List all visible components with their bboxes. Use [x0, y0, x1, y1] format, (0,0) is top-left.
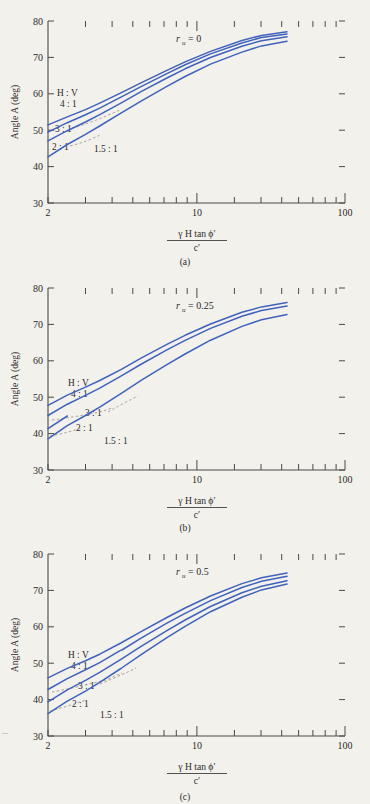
curve-label-header: H : V [68, 650, 89, 660]
page-edge-artifact [2, 733, 8, 734]
y-tick-label: 40 [33, 161, 43, 172]
x-tick-label: 10 [192, 740, 202, 751]
y-axis-title: Angle A (deg) [9, 352, 21, 406]
annotation-value: = 0.25 [188, 300, 214, 311]
x-tick-label: 2 [46, 740, 51, 751]
curves-c [48, 573, 287, 714]
curve-2to1 [48, 37, 287, 141]
curve-2to1 [48, 416, 67, 429]
y-tick-label: 60 [33, 621, 43, 632]
subfigure-caption-a: (a) [180, 256, 191, 268]
annotation-symbol: r [176, 33, 180, 44]
chart-svg-c: 30 40 50 60 70 80 2 10 100 Angle A (deg)… [0, 534, 370, 804]
x-axis-numerator: γ H tan ϕ′ [177, 228, 215, 239]
y-tick-label: 80 [33, 549, 43, 560]
y-tick-labels-a: 30 40 50 60 70 80 [33, 16, 43, 209]
y-tick-label: 30 [33, 731, 43, 742]
x-axis-title-c: γ H tan ϕ′ c′ [167, 761, 227, 786]
y-tick-labels-c: 30 40 50 60 70 80 [33, 549, 43, 742]
curve-4to1 [48, 573, 287, 678]
chart-svg-a: 30 40 50 60 70 80 2 10 100 Angle A (deg)… [0, 0, 370, 268]
x-tick-label: 10 [192, 207, 202, 218]
annotation-value: = 0.5 [188, 566, 209, 577]
subfigure-caption-b: (b) [179, 522, 190, 534]
curve-label-header: H : V [57, 88, 78, 98]
y-tick-label: 50 [33, 658, 43, 669]
x-tick-labels-a: 2 10 100 [46, 207, 353, 218]
x-axis-numerator: γ H tan ϕ′ [177, 495, 215, 506]
annotation-subscript: u [182, 39, 186, 47]
y-tick-label: 40 [33, 428, 43, 439]
annotation-symbol: r [176, 300, 180, 311]
y-axis-ticks-c [48, 554, 345, 736]
curve-15to1 [48, 584, 287, 714]
x-axis-ticks-b [48, 288, 345, 470]
curve-label-2to1: 2 : 1 [76, 423, 93, 433]
x-tick-label: 100 [338, 740, 353, 751]
curve-15to1 [48, 314, 287, 438]
curve-label-15to1: 1.5 : 1 [104, 436, 128, 446]
y-tick-label: 70 [33, 585, 43, 596]
x-tick-labels-b: 2 10 100 [46, 474, 353, 485]
y-axis-title: Angle A (deg) [9, 85, 21, 139]
curve-label-3to1: 3 : 1 [85, 408, 102, 418]
y-tick-label: 60 [33, 88, 43, 99]
curve-label-2to1: 2 : 1 [52, 142, 69, 152]
annotation-symbol: r [176, 566, 180, 577]
annotation-value: = 0 [188, 33, 201, 44]
annotation-subscript: u [182, 306, 186, 314]
curve-15to1 [48, 41, 287, 157]
x-tick-label: 100 [338, 207, 353, 218]
chart-panel-a: 30 40 50 60 70 80 2 10 100 Angle A (deg)… [0, 0, 370, 268]
x-axis-denominator: c′ [194, 509, 200, 520]
y-tick-label: 70 [33, 52, 43, 63]
axis-lines [48, 554, 345, 736]
y-tick-label: 70 [33, 319, 43, 330]
curve-label-15to1: 1.5 : 1 [94, 144, 118, 154]
x-axis-title-b: γ H tan ϕ′ c′ [167, 495, 227, 520]
annotation-ru-c: r u = 0.5 [176, 566, 209, 580]
curve-label-4to1: 4 : 1 [60, 99, 77, 109]
annotation-ru-b: r u = 0.25 [176, 300, 214, 314]
x-axis-denominator: c′ [194, 775, 200, 786]
chart-svg-b: 30 40 50 60 70 80 2 10 100 Angle A (deg)… [0, 268, 370, 534]
x-tick-label: 2 [46, 207, 51, 218]
x-axis-numerator: γ H tan ϕ′ [177, 761, 215, 772]
curves-a [48, 32, 287, 157]
x-tick-label: 100 [338, 474, 353, 485]
y-tick-label: 60 [33, 355, 43, 366]
annotation-subscript: u [182, 572, 186, 580]
y-tick-label: 40 [33, 694, 43, 705]
x-axis-denominator: c′ [194, 242, 200, 253]
x-tick-labels-c: 2 10 100 [46, 740, 353, 751]
y-tick-label: 50 [33, 392, 43, 403]
y-axis-ticks-b [48, 288, 345, 470]
chart-panel-b: 30 40 50 60 70 80 2 10 100 Angle A (deg)… [0, 268, 370, 534]
subfigure-caption-c: (c) [180, 791, 191, 803]
annotation-ru-a: r u = 0 [176, 33, 201, 47]
y-tick-label: 80 [33, 283, 43, 294]
x-tick-label: 2 [46, 474, 51, 485]
figure-page: 30 40 50 60 70 80 2 10 100 Angle A (deg)… [0, 0, 370, 804]
x-tick-label: 10 [192, 474, 202, 485]
curves-b [48, 303, 287, 439]
y-tick-label: 30 [33, 465, 43, 476]
x-axis-ticks-c [48, 554, 345, 736]
y-tick-label: 80 [33, 16, 43, 27]
y-axis-title: Angle A (deg) [9, 618, 21, 672]
y-tick-labels-b: 30 40 50 60 70 80 [33, 283, 43, 476]
axis-lines [48, 288, 345, 470]
y-tick-label: 50 [33, 125, 43, 136]
x-axis-title-a: γ H tan ϕ′ c′ [167, 228, 227, 253]
chart-panel-c: 30 40 50 60 70 80 2 10 100 Angle A (deg)… [0, 534, 370, 804]
y-tick-label: 30 [33, 198, 43, 209]
curve-label-15to1: 1.5 : 1 [100, 710, 124, 720]
